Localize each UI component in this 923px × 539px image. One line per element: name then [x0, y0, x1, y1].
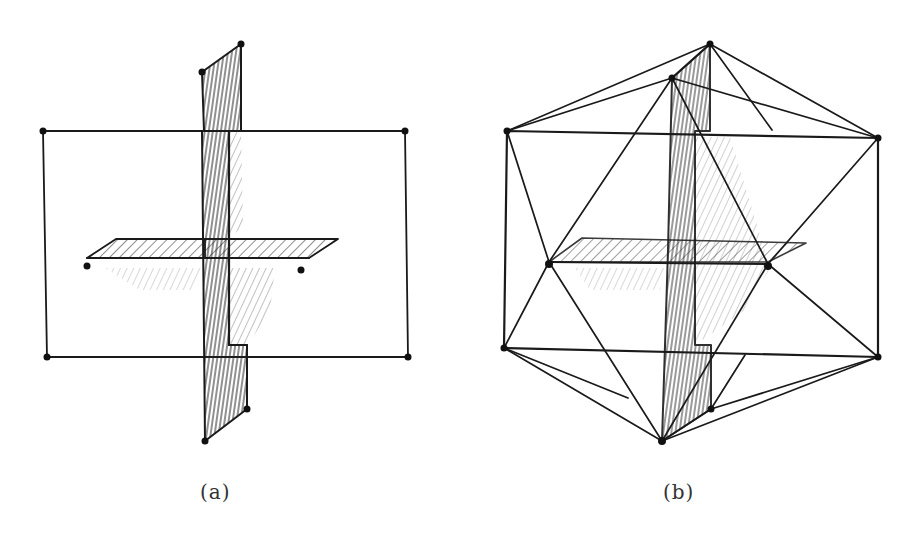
horizontal-rectangle-b	[549, 238, 806, 262]
shadow-region-upper	[229, 131, 243, 240]
caption-b: (b)	[663, 480, 694, 504]
panel-b-icosahedron	[501, 41, 882, 446]
panel-a-golden-rectangles	[40, 41, 412, 445]
shadow-under-plane-b	[575, 268, 665, 290]
horizontal-rectangle	[87, 239, 338, 258]
vertical-rectangle-top	[202, 44, 241, 131]
diagram-canvas	[0, 0, 923, 539]
caption-a: (a)	[200, 480, 231, 504]
